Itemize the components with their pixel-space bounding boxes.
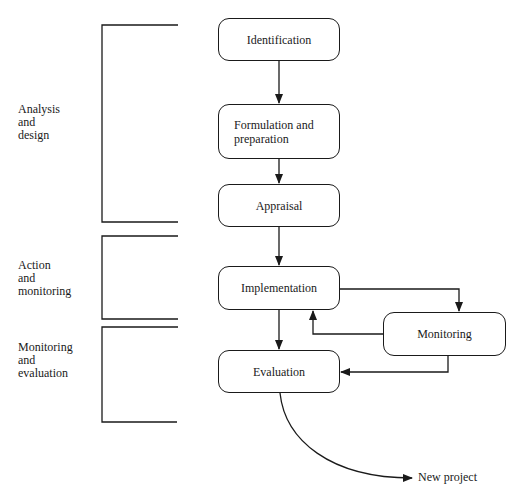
diagram-connectors [0, 0, 523, 499]
phase-label-action: Action and monitoring [18, 259, 71, 298]
bracket-action [102, 236, 178, 319]
node-identification: Identification [218, 18, 340, 61]
node-appraisal: Appraisal [218, 184, 340, 227]
new-project-label: New project [418, 470, 477, 485]
phase-label-analysis: Analysis and design [18, 103, 60, 142]
bracket-analysis [102, 25, 178, 222]
arrow-evaluation-new-project [280, 393, 412, 478]
arrow-monitoring-implementation [313, 311, 383, 334]
arrow-monitoring-evaluation [341, 356, 448, 372]
bracket-monitoring-eval [102, 327, 178, 422]
phase-label-monitoring-eval: Monitoring and evaluation [18, 341, 73, 380]
node-formulation: Formulation and preparation [218, 104, 340, 159]
node-monitoring: Monitoring [383, 312, 506, 356]
node-evaluation: Evaluation [218, 350, 340, 393]
node-implementation: Implementation [218, 266, 340, 310]
arrow-implementation-monitoring [340, 289, 459, 311]
